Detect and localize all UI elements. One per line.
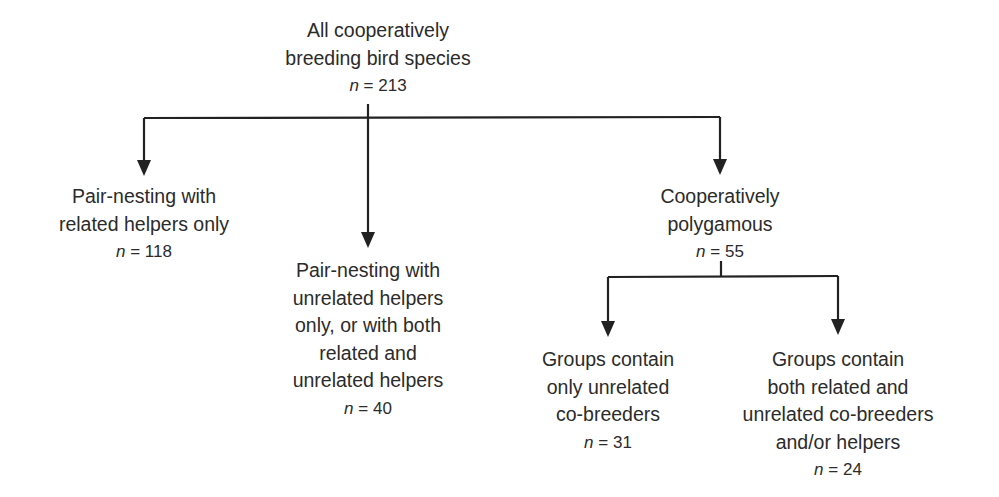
node-label-line: both related and: [728, 374, 948, 402]
node-label-line: Pair-nesting with: [268, 257, 468, 285]
arrowhead-icon: [361, 232, 375, 248]
node-count: n = 55: [620, 238, 820, 266]
node-label-line: polygamous: [620, 211, 820, 239]
node-both: Groups contain both related and unrelate…: [728, 346, 948, 484]
node-label-line: related helpers only: [34, 211, 254, 239]
node-label-line: All cooperatively: [268, 17, 488, 45]
node-label-line: and/or helpers: [728, 429, 948, 457]
node-count: n = 213: [268, 72, 488, 100]
polygamous-branch-bar: [608, 276, 838, 277]
node-root: All cooperatively breeding bird species …: [268, 17, 488, 100]
node-polygamous: Cooperatively polygamous n = 55: [620, 183, 820, 266]
node-label-line: related and: [268, 340, 468, 368]
node-pair-related: Pair-nesting with related helpers only n…: [34, 183, 254, 266]
arrowhead-icon: [831, 319, 845, 335]
node-label-line: Pair-nesting with: [34, 183, 254, 211]
arrowhead-icon: [601, 321, 615, 337]
node-label-line: Groups contain: [518, 346, 698, 374]
root-branch-bar: [144, 117, 720, 118]
node-count: n = 118: [34, 238, 254, 266]
node-count: n = 40: [268, 395, 468, 423]
arrowhead-icon: [137, 160, 151, 176]
node-label-line: co-breeders: [518, 401, 698, 429]
node-pair-unrelated: Pair-nesting with unrelated helpers only…: [268, 257, 468, 422]
node-label-line: Cooperatively: [620, 183, 820, 211]
node-count: n = 24: [728, 456, 948, 484]
node-label-line: Groups contain: [728, 346, 948, 374]
node-label-line: breeding bird species: [268, 45, 488, 73]
node-only-unrelated: Groups contain only unrelated co-breeder…: [518, 346, 698, 456]
arrowhead-icon: [713, 159, 727, 175]
node-count: n = 31: [518, 429, 698, 457]
node-label-line: unrelated helpers: [268, 367, 468, 395]
node-label-line: only, or with both: [268, 312, 468, 340]
node-label-line: only unrelated: [518, 374, 698, 402]
node-label-line: unrelated co-breeders: [728, 401, 948, 429]
node-label-line: unrelated helpers: [268, 285, 468, 313]
